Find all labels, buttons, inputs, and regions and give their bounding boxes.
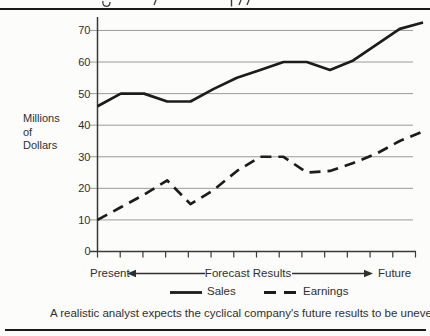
- series-line-earnings: [98, 131, 424, 219]
- x-axis-label-present: Present: [90, 267, 130, 279]
- x-axis-label-forecast-results: Forecast Results: [205, 267, 291, 279]
- earnings-legend-label: Earnings: [303, 285, 348, 297]
- y-tick-label-0: 0: [84, 245, 90, 257]
- y-axis-unit-line3: Dollars: [23, 139, 60, 153]
- y-tick-label-50: 50: [78, 88, 90, 100]
- present-arrow: [127, 270, 205, 277]
- y-axis-unit-line1: Millions: [23, 112, 60, 126]
- y-tick-label-60: 60: [78, 56, 90, 68]
- y-tick-label-10: 10: [78, 214, 90, 226]
- y-axis-unit-line2: of: [23, 126, 60, 140]
- y-tick-label-40: 40: [78, 119, 90, 131]
- y-tick-label-20: 20: [78, 182, 90, 194]
- y-tick-label-30: 30: [78, 151, 90, 163]
- future-arrow: [292, 270, 373, 277]
- y-tick-label-70: 70: [78, 24, 90, 36]
- figure-page: 010203040506070 Millions of Dollars Pres…: [0, 0, 430, 336]
- figure-caption: A realistic analyst expects the cyclical…: [50, 307, 426, 319]
- x-axis-label-future: Future: [378, 267, 411, 279]
- y-axis-unit-label: Millions of Dollars: [23, 112, 60, 153]
- sales-legend-label: Sales: [207, 285, 236, 297]
- bottom-rule: [5, 329, 426, 331]
